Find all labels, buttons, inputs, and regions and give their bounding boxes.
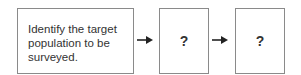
step-1-line-3: surveyed. [28,50,117,64]
step-1-text: Identify the target population to be sur… [28,22,117,64]
step-1-line-1: Identify the target [28,22,117,36]
step-3-box: ? [235,8,285,74]
step-1-line-2: population to be [28,36,117,50]
step-1-box: Identify the target population to be sur… [17,8,134,74]
arrow-right-icon [212,34,228,46]
arrow-right-icon [137,34,153,46]
step-2-box: ? [159,8,209,74]
step-2-placeholder: ? [160,33,208,49]
step-3-placeholder: ? [236,33,284,49]
